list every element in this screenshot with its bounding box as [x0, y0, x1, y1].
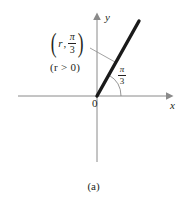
point-coordinate-label: ( r , π 3 ) — [49, 32, 86, 55]
polar-point-figure: y x 0 ( r , π 3 ) (r > 0) π 3 (a) — [0, 0, 187, 206]
y-axis-arrowhead — [93, 13, 101, 21]
angle-measure-numerator: π — [119, 65, 126, 75]
close-paren: ) — [78, 33, 84, 53]
coordinate-comma: , — [64, 38, 68, 49]
angle-numerator: π — [69, 32, 76, 43]
figure-caption: (a) — [0, 180, 187, 192]
leader-line — [90, 48, 115, 62]
angle-denominator: 3 — [69, 44, 76, 55]
x-axis-label: x — [170, 100, 175, 111]
angle-measure-fraction: π 3 — [118, 65, 126, 86]
angle-fraction: π 3 — [68, 32, 76, 55]
y-axis-label: y — [105, 12, 110, 23]
coordinate-pair: r , π 3 — [58, 32, 76, 55]
open-paren: ( — [51, 33, 57, 53]
radius-symbol: r — [58, 38, 62, 49]
origin-label: 0 — [92, 98, 98, 109]
radius-condition-label: (r > 0) — [50, 62, 80, 73]
angle-measure-denominator: 3 — [119, 76, 126, 86]
angle-measure-label: π 3 — [118, 65, 126, 86]
